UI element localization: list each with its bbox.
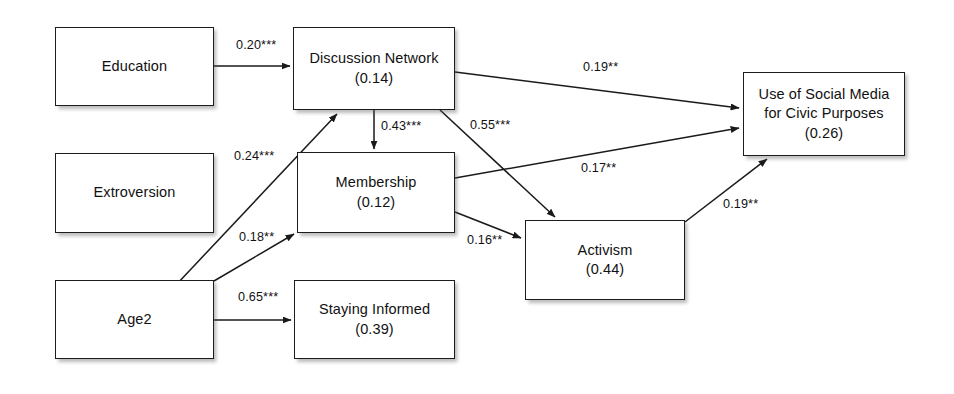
node-staying-informed-value: (0.39) <box>355 320 393 339</box>
node-use-of-social-media-label-line2: for Civic Purposes <box>764 104 883 123</box>
node-discussion-network-label: Discussion Network <box>309 49 438 68</box>
edge-discussion-network-to-use-of-social-media <box>455 72 739 108</box>
edge-label-discussion-network-to-activism: 0.55*** <box>470 118 510 132</box>
node-age2-label: Age2 <box>117 310 151 329</box>
node-activism-value: (0.44) <box>586 260 624 279</box>
node-extroversion[interactable]: Extroversion <box>55 153 214 233</box>
edge-label-age2-to-membership: 0.18** <box>239 230 274 244</box>
node-membership[interactable]: Membership (0.12) <box>297 152 455 233</box>
edge-label-membership-to-use-of-social-media: 0.17** <box>581 161 616 175</box>
node-membership-value: (0.12) <box>357 193 395 212</box>
node-use-of-social-media[interactable]: Use of Social Media for Civic Purposes (… <box>743 72 905 156</box>
edge-label-membership-to-activism: 0.16** <box>467 233 502 247</box>
node-discussion-network[interactable]: Discussion Network (0.14) <box>293 27 455 110</box>
node-activism[interactable]: Activism (0.44) <box>525 220 685 300</box>
node-membership-label: Membership <box>336 173 417 192</box>
path-diagram: Education Extroversion Age2 Discussion N… <box>0 0 954 394</box>
edge-label-discussion-network-to-use-of-social-media: 0.19** <box>583 60 618 74</box>
node-discussion-network-value: (0.14) <box>355 69 393 88</box>
node-staying-informed-label: Staying Informed <box>319 300 430 319</box>
node-use-of-social-media-value: (0.26) <box>805 124 843 143</box>
node-extroversion-label: Extroversion <box>94 183 176 202</box>
edge-label-extroversion-to-discussion-network: 0.24*** <box>234 149 274 163</box>
edge-label-discussion-network-to-membership: 0.43*** <box>381 119 421 133</box>
edge-label-activism-to-use-of-social-media: 0.19** <box>723 197 758 211</box>
edge-activism-to-use-of-social-media <box>685 159 767 222</box>
node-use-of-social-media-label-line1: Use of Social Media <box>759 85 890 104</box>
node-age2[interactable]: Age2 <box>55 280 214 359</box>
node-activism-label: Activism <box>578 241 633 260</box>
node-education[interactable]: Education <box>55 27 214 106</box>
edge-label-education-to-discussion-network: 0.20*** <box>236 38 276 52</box>
node-education-label: Education <box>102 57 167 76</box>
node-staying-informed[interactable]: Staying Informed (0.39) <box>294 280 455 359</box>
edge-label-age2-to-staying-informed: 0.65*** <box>238 290 278 304</box>
